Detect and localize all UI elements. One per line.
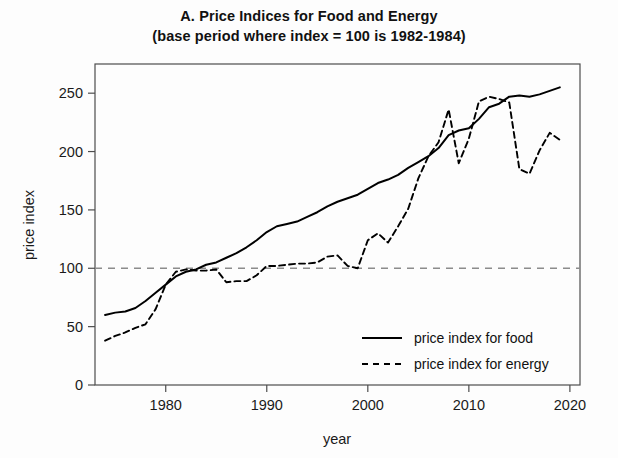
x-tick-label: 1990 [251, 397, 283, 413]
plot-svg: 050100150200250 19801990200020102020 pri… [0, 0, 618, 458]
y-tick-label: 200 [59, 144, 83, 160]
legend-label-energy: price index for energy [414, 356, 549, 372]
series-line-food [105, 87, 560, 315]
y-tick-label: 250 [59, 85, 83, 101]
x-tick-label: 1980 [150, 397, 182, 413]
y-axis-label: price index [21, 189, 37, 260]
chart-figure: A. Price Indices for Food and Energy (ba… [0, 0, 618, 458]
y-tick-label: 50 [67, 319, 83, 335]
data-series [105, 87, 560, 340]
x-tick-label: 2010 [453, 397, 485, 413]
y-tick-label: 150 [59, 202, 83, 218]
x-axis-label: year [323, 431, 351, 447]
y-axis-ticks: 050100150200250 [59, 85, 95, 393]
x-axis-ticks: 19801990200020102020 [150, 385, 586, 413]
y-tick-label: 100 [59, 260, 83, 276]
x-tick-label: 2020 [554, 397, 586, 413]
chart-legend: price index for foodprice index for ener… [362, 330, 549, 372]
legend-label-food: price index for food [414, 330, 533, 346]
x-tick-label: 2000 [352, 397, 384, 413]
series-line-energy [105, 97, 560, 341]
y-tick-label: 0 [75, 377, 83, 393]
